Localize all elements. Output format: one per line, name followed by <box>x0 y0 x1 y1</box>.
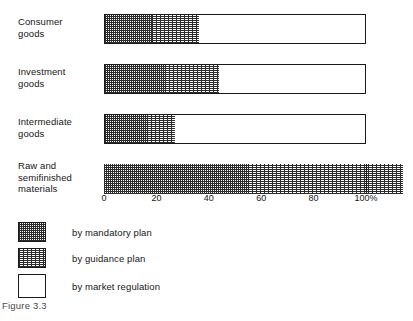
segment-market-regulation <box>219 65 365 93</box>
figure-caption: Figure 3.3 <box>2 300 47 311</box>
legend-item-guidance-plan: by guidance plan <box>18 245 160 271</box>
light-dotted-swatch-icon <box>18 248 46 268</box>
hundred-percent-rule <box>366 164 367 194</box>
bar-investment-goods <box>104 64 366 94</box>
legend-item-mandatory-plan: by mandatory plan <box>18 219 160 245</box>
segment-market-regulation <box>199 15 365 43</box>
legend: by mandatory plan by guidance plan by ma… <box>18 219 160 301</box>
stacked-bar-chart: Consumer goods Investment goods Intermed… <box>0 0 413 321</box>
bar-consumer-goods <box>104 14 366 44</box>
segment-mandatory-plan <box>104 164 248 194</box>
segment-mandatory-plan <box>105 65 165 93</box>
axis-tick-0: 0 <box>101 193 106 203</box>
axis-tick-40: 40 <box>204 193 214 203</box>
category-label-consumer-goods: Consumer goods <box>18 16 63 39</box>
axis-tick-60: 60 <box>256 193 266 203</box>
legend-label-guidance-plan: by guidance plan <box>72 253 145 264</box>
legend-label-market-regulation: by market regulation <box>72 281 160 292</box>
dark-crosshatch-swatch-icon <box>18 222 46 242</box>
axis-tick-100: 100% <box>354 193 377 203</box>
segment-guidance-plan <box>165 65 220 93</box>
x-axis: 0 20 40 60 80 100% <box>104 191 366 211</box>
axis-tick-20: 20 <box>151 193 161 203</box>
segment-guidance-plan <box>248 164 403 194</box>
category-label-intermediate-goods: Intermediate goods <box>18 116 72 139</box>
legend-item-market-regulation: by market regulation <box>18 271 160 301</box>
segment-mandatory-plan <box>105 15 152 43</box>
bar-intermediate-goods <box>104 114 366 144</box>
legend-label-mandatory-plan: by mandatory plan <box>72 227 152 238</box>
segment-mandatory-plan <box>105 115 147 143</box>
category-label-raw-and-semifinished-materials: Raw and semifinished materials <box>18 160 72 195</box>
category-label-investment-goods: Investment goods <box>18 66 65 89</box>
white-empty-swatch-icon <box>18 274 46 298</box>
axis-tick-80: 80 <box>309 193 319 203</box>
segment-guidance-plan <box>147 115 176 143</box>
segment-guidance-plan <box>152 15 199 43</box>
bar-raw-and-semifinished-materials <box>104 164 403 194</box>
segment-market-regulation <box>175 115 365 143</box>
